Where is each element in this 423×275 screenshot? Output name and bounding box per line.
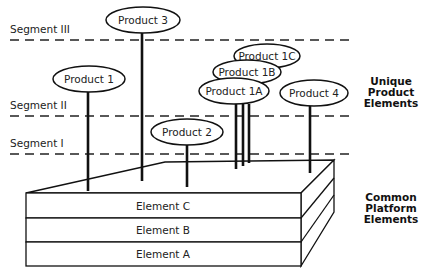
svg-text:Product 4: Product 4 xyxy=(289,87,339,99)
product-1-node: Product 1 xyxy=(53,66,125,92)
svg-text:Elements: Elements xyxy=(364,213,419,225)
svg-text:Product 1: Product 1 xyxy=(64,73,114,85)
product-2-node: Product 2 xyxy=(151,119,223,145)
product-3-node: Product 3 xyxy=(106,7,180,33)
svg-text:Product 1B: Product 1B xyxy=(218,66,275,78)
platform-diagram: Segment III Segment II Segment I Element… xyxy=(0,0,423,275)
product-4-node: Product 4 xyxy=(280,80,348,106)
segment-iii-label: Segment III xyxy=(10,23,70,35)
element-c-label: Element C xyxy=(136,200,190,212)
svg-text:Elements: Elements xyxy=(364,97,419,109)
svg-text:Product 2: Product 2 xyxy=(162,126,212,138)
common-platform-elements-label: Common Platform Elements xyxy=(364,191,419,225)
element-a-label: Element A xyxy=(136,248,191,260)
platform-box: Element C Element B Element A xyxy=(26,160,334,266)
product-1a-node: Product 1A xyxy=(199,78,269,104)
segment-ii-label: Segment II xyxy=(10,99,67,111)
platform-top-face xyxy=(26,160,334,193)
segment-i-label: Segment I xyxy=(10,137,64,149)
svg-text:Product 1A: Product 1A xyxy=(205,85,263,97)
svg-text:Product 3: Product 3 xyxy=(118,14,168,26)
element-b-label: Element B xyxy=(136,224,190,236)
unique-product-elements-label: Unique Product Elements xyxy=(364,75,419,109)
